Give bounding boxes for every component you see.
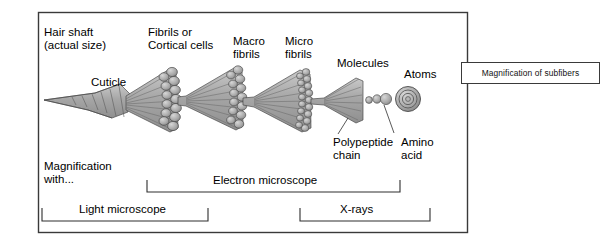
- label-cuticle: Cuticle: [91, 76, 126, 89]
- caption-box: Magnification of subfibers: [461, 62, 600, 84]
- atom-symbol: [396, 87, 421, 112]
- label-fibrils: Fibrils or Cortical cells: [148, 26, 213, 51]
- label-atoms: Atoms: [404, 68, 437, 81]
- diagram-page: Hair shaft (actual size) Cuticle Fibrils…: [0, 0, 608, 245]
- label-hair-shaft: Hair shaft (actual size): [44, 26, 106, 51]
- caption-text: Magnification of subfibers: [482, 68, 580, 78]
- label-macro-fibrils: Macro fibrils: [233, 35, 265, 60]
- label-electron-microscope: Electron microscope: [213, 174, 317, 187]
- label-xrays: X-rays: [340, 203, 373, 216]
- molecule-cone: [311, 78, 363, 123]
- label-molecules: Molecules: [337, 57, 389, 70]
- label-micro-fibrils: Micro fibrils: [285, 35, 313, 60]
- polypeptide-beads: [366, 93, 392, 104]
- label-polypeptide-chain: Polypeptide chain: [333, 136, 393, 161]
- hair-shaft-shape: [44, 84, 130, 118]
- label-light-microscope: Light microscope: [79, 203, 166, 216]
- label-magnification-with: Magnification with...: [44, 160, 112, 185]
- leader-line-amino-acid: [384, 105, 394, 133]
- label-amino-acid: Amino acid: [401, 136, 434, 161]
- leader-line-polypeptide: [338, 118, 348, 134]
